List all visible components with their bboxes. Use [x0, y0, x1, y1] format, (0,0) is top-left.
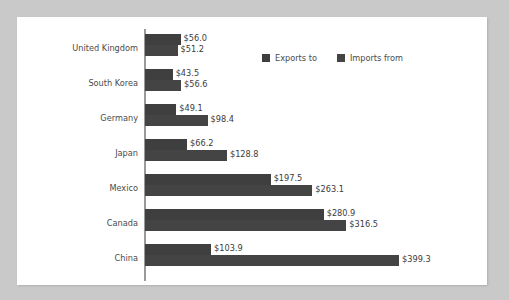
category-label: Canada: [22, 214, 138, 232]
bar-chart-plot-area: Exports to Imports from United Kingdom$5…: [17, 17, 487, 285]
category-label: Japan: [22, 144, 138, 162]
bar-value-label: $51.2: [181, 44, 204, 55]
bar-value-label: $56.6: [184, 79, 207, 90]
bar-imports[interactable]: [145, 185, 312, 196]
bar-exports[interactable]: [145, 244, 211, 255]
bar-exports[interactable]: [145, 104, 176, 115]
bar-value-label: $43.5: [176, 68, 199, 79]
bar-exports[interactable]: [145, 34, 181, 45]
category-label: United Kingdom: [22, 39, 138, 57]
bar-imports[interactable]: [145, 255, 399, 266]
category-label: Mexico: [22, 179, 138, 197]
bar-value-label: $103.9: [214, 243, 243, 254]
bar-imports[interactable]: [145, 45, 178, 56]
bar-exports[interactable]: [145, 209, 324, 220]
bar-value-label: $49.1: [179, 103, 202, 114]
bar-value-label: $66.2: [190, 138, 213, 149]
screenshot-root: Exports to Imports from United Kingdom$5…: [0, 0, 509, 300]
bar-group-canada: Canada$280.9$316.5: [17, 206, 487, 241]
bar-value-label: $399.3: [402, 254, 431, 265]
bar-group-united-kingdom: United Kingdom$56.0$51.2: [17, 31, 487, 66]
bar-value-label: $98.4: [211, 114, 234, 125]
bar-value-label: $128.8: [230, 149, 259, 160]
bar-imports[interactable]: [145, 80, 181, 91]
bar-group-germany: Germany$49.1$98.4: [17, 101, 487, 136]
bar-imports[interactable]: [145, 115, 208, 126]
bar-exports[interactable]: [145, 139, 187, 150]
bar-value-label: $197.5: [274, 173, 303, 184]
bar-value-label: $316.5: [349, 219, 378, 230]
chart-card: Exports to Imports from United Kingdom$5…: [17, 17, 487, 285]
bar-group-japan: Japan$66.2$128.8: [17, 136, 487, 171]
category-label: South Korea: [22, 74, 138, 92]
bar-group-south-korea: South Korea$43.5$56.6: [17, 66, 487, 101]
bar-group-mexico: Mexico$197.5$263.1: [17, 171, 487, 206]
category-label: Germany: [22, 109, 138, 127]
category-label: China: [22, 249, 138, 267]
bar-exports[interactable]: [145, 69, 173, 80]
bar-value-label: $263.1: [315, 184, 344, 195]
bar-group-china: China$103.9$399.3: [17, 241, 487, 276]
bar-imports[interactable]: [145, 150, 227, 161]
bar-exports[interactable]: [145, 174, 271, 185]
bar-value-label: $280.9: [327, 208, 356, 219]
bar-imports[interactable]: [145, 220, 346, 231]
bar-value-label: $56.0: [184, 33, 207, 44]
